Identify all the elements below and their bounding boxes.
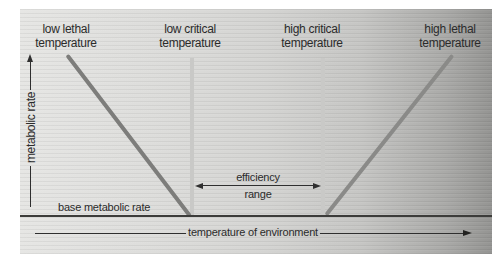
high-critical-temperature-line xyxy=(321,58,325,216)
low-critical-temperature-label: low critical temperature xyxy=(148,22,232,50)
figure: low lethal temperature low critical temp… xyxy=(0,0,501,272)
efficiency-range-arrow-line xyxy=(198,185,318,186)
gradient-panel: low lethal temperature low critical temp… xyxy=(20,9,492,254)
y-axis-line-lower xyxy=(30,166,31,207)
x-axis-arrow-icon xyxy=(463,230,472,236)
x-axis-line-left xyxy=(35,233,186,234)
efficiency-range-label-line1: efficiency xyxy=(216,171,300,183)
x-axis-line-right xyxy=(320,233,463,234)
high-lethal-temperature-label: high lethal temperature xyxy=(408,22,492,50)
base-metabolic-rate-line xyxy=(20,215,492,217)
efficiency-range-arrow-left-icon xyxy=(195,183,203,189)
efficiency-range-arrow-right-icon xyxy=(313,183,321,189)
y-axis-label: metabolic rate xyxy=(24,88,37,168)
metabolic-rate-rise-hot-line xyxy=(324,54,454,216)
high-critical-temperature-label: high critical temperature xyxy=(270,22,354,50)
low-lethal-temperature-label: low lethal temperature xyxy=(24,22,108,50)
x-axis-label: temperature of environment xyxy=(186,226,320,238)
metabolic-rate-rise-cold-line xyxy=(65,54,191,218)
y-axis-line-upper xyxy=(30,61,31,90)
low-critical-temperature-line xyxy=(190,58,194,216)
efficiency-range-label-line2: range xyxy=(216,188,300,200)
base-metabolic-rate-label: base metabolic rate xyxy=(58,201,150,213)
